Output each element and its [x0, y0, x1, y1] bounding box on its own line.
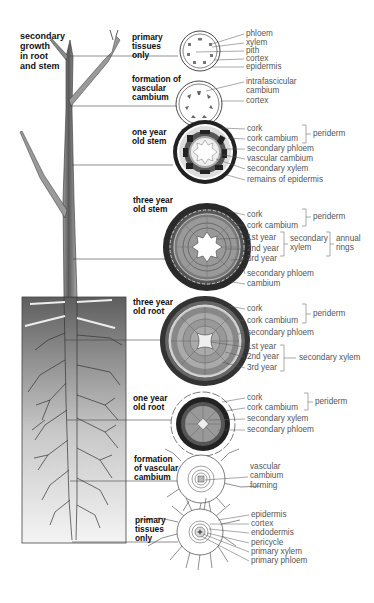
- label-cork-cambium: cork cambium: [247, 221, 298, 230]
- label-secondary-xylem: secondary xylem: [247, 164, 308, 173]
- stage-title-stem-one-year: one year old stem: [132, 128, 166, 146]
- label-secondary-xylem: secondary xylem: [247, 414, 308, 423]
- bracket-label-periderm: periderm: [315, 397, 347, 406]
- stage-title-root-vascular-cambium: formation of vascular cambium: [134, 455, 178, 482]
- label-secondary-phloem: secondary phloem: [247, 144, 314, 153]
- label-endodermis: endodermis: [251, 528, 294, 537]
- label-intrafascicular-cambium: intrafascicular cambium: [246, 77, 297, 96]
- bracket-label-secondary-xylem: secondary xylem: [299, 353, 360, 362]
- bracket-label-secondary-xylem: secondary xylem: [290, 234, 328, 253]
- title-line: growth: [20, 41, 65, 51]
- label-cambium: cambium: [247, 279, 280, 288]
- label-1st-year: 1st year: [247, 233, 276, 242]
- label-line: cambium: [246, 86, 297, 95]
- bracket-label-periderm: periderm: [313, 212, 345, 221]
- root-three-year-cross-section: [160, 296, 250, 386]
- label-cork-cambium: cork cambium: [247, 403, 298, 412]
- label-primary-phloem: primary phloem: [251, 556, 307, 565]
- label-1st-year: 1st year: [247, 342, 276, 351]
- title-line: and stem: [20, 61, 65, 71]
- diagram-secondary-growth: secondary growth in root and stem primar…: [0, 0, 374, 603]
- label-line: intrafascicular: [246, 77, 297, 86]
- label-cork-cambium: cork cambium: [247, 316, 298, 325]
- stage-title-line: old stem: [132, 137, 166, 146]
- stage-title-stem-primary: primary tissues only: [132, 33, 163, 60]
- label-secondary-phloem: secondary phloem: [247, 269, 314, 278]
- label-line: cambium: [250, 471, 283, 480]
- label-line: vascular: [250, 462, 283, 471]
- label-cork-cambium: cork cambium: [247, 134, 298, 143]
- label-cortex: cortex: [251, 519, 273, 528]
- label-line: annual: [336, 234, 361, 243]
- title-line: in root: [20, 51, 65, 61]
- bracket-label-periderm: periderm: [313, 129, 345, 138]
- label-2nd-year: 2nd year: [247, 352, 279, 361]
- label-cork: cork: [247, 210, 262, 219]
- stage-title-stem-three-year: three year old stem: [133, 196, 173, 214]
- stage-title-root-three-year: three year old root: [133, 298, 173, 316]
- bracket-label-periderm: periderm: [313, 309, 345, 318]
- label-line: rings: [336, 243, 361, 252]
- label-epidermis: epidermis: [246, 62, 282, 71]
- stage-title-line: old root: [133, 403, 167, 412]
- diagram-title: secondary growth in root and stem: [20, 31, 65, 71]
- label-secondary-phloem: secondary phloem: [247, 328, 314, 337]
- stage-title-line: old root: [133, 307, 173, 316]
- label-epidermis: epidermis: [251, 510, 287, 519]
- label-line: forming: [250, 481, 283, 490]
- stem-vascular-cambium-cross-section: [176, 81, 222, 127]
- label-3rd-year: 3rd year: [247, 363, 277, 372]
- stage-title-root-one-year: one year old root: [133, 394, 167, 412]
- label-cork: cork: [247, 393, 262, 402]
- label-cork: cork: [247, 304, 262, 313]
- stage-title-stem-vascular-cambium: formation of vascular cambium: [132, 75, 181, 102]
- label-secondary-phloem: secondary phloem: [247, 425, 314, 434]
- label-pericycle: pericycle: [251, 538, 283, 547]
- label-phloem: phloem: [246, 29, 273, 38]
- label-cork: cork: [247, 124, 262, 133]
- diagram-illustration: [0, 0, 374, 603]
- title-line: secondary: [20, 31, 65, 41]
- label-remains-of-epidermis: remains of epidermis: [247, 175, 323, 184]
- label-cortex: cortex: [246, 96, 268, 105]
- stem-primary-cross-section: [180, 31, 220, 71]
- label-line: secondary: [290, 234, 328, 243]
- label-vascular-cambium: vascular cambium: [247, 154, 313, 163]
- stage-title-line: only: [132, 51, 163, 60]
- label-primary-xylem: primary xylem: [251, 547, 302, 556]
- stem-three-year-cross-section: [163, 203, 251, 291]
- stage-title-line: only: [135, 534, 166, 543]
- bracket-label-annual-rings: annual rings: [336, 234, 361, 253]
- stage-title-line: cambium: [134, 473, 178, 482]
- stage-title-line: old stem: [133, 205, 173, 214]
- stage-title-root-primary: primary tissues only: [135, 516, 166, 543]
- root-vascular-cambium-cross-section: [165, 449, 261, 513]
- label-line: xylem: [290, 243, 328, 252]
- stage-title-line: cambium: [132, 93, 181, 102]
- label-3rd-year: 3rd year: [247, 254, 277, 263]
- label-vascular-cambium-forming: vascular cambium forming: [250, 462, 283, 490]
- label-2nd-year: 2nd year: [247, 244, 279, 253]
- stem-one-year-cross-section: [173, 120, 237, 184]
